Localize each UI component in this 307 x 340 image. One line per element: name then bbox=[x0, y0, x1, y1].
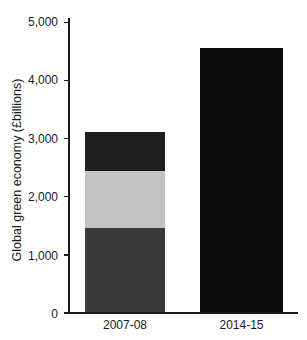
bar-segment-bottom-2007-08 bbox=[85, 228, 165, 313]
y-axis-tick-labels: 5,000 4,000 3,000 2,000 1,000 0 bbox=[0, 0, 58, 340]
y-tick-mark-1000 bbox=[64, 254, 68, 255]
y-tick-label-0: 0 bbox=[51, 308, 58, 320]
y-tick-mark-3000 bbox=[64, 138, 68, 139]
y-tick-mark-0 bbox=[64, 312, 68, 313]
bar-segment-top-2007-08 bbox=[85, 132, 165, 172]
x-axis-line bbox=[68, 312, 298, 314]
bar-2007-08[interactable] bbox=[85, 132, 165, 313]
bar-2014-15[interactable] bbox=[200, 48, 283, 313]
bar-segment-middle-2007-08 bbox=[85, 171, 165, 227]
y-tick-label-5000: 5,000 bbox=[28, 16, 58, 28]
x-tick-label-2007-08: 2007-08 bbox=[85, 318, 165, 332]
y-tick-label-1000: 1,000 bbox=[28, 250, 58, 262]
y-tick-mark-2000 bbox=[64, 196, 68, 197]
y-tick-label-2000: 2,000 bbox=[28, 191, 58, 203]
y-tick-mark-5000 bbox=[64, 22, 68, 23]
y-tick-mark-4000 bbox=[64, 80, 68, 81]
bar-segment-bottom-2014-15 bbox=[200, 48, 283, 313]
x-tick-label-2014-15: 2014-15 bbox=[200, 318, 283, 332]
y-tick-label-4000: 4,000 bbox=[28, 74, 58, 86]
y-axis-line bbox=[68, 18, 70, 314]
chart-container: Global green economy (£billions) 5,000 4… bbox=[0, 0, 307, 340]
y-tick-label-3000: 3,000 bbox=[28, 133, 58, 145]
